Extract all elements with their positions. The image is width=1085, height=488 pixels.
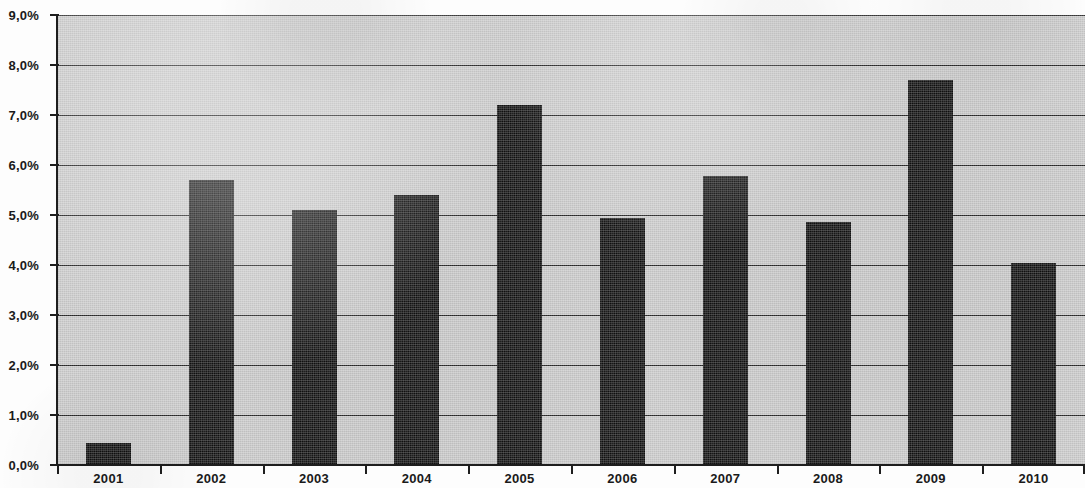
bar-2007 bbox=[703, 176, 748, 465]
bar-fill bbox=[703, 176, 748, 465]
y-tick-label: 1,0% bbox=[0, 408, 39, 423]
bar-2006 bbox=[600, 218, 645, 466]
y-tick-mark bbox=[50, 14, 59, 16]
x-tick-mark bbox=[57, 465, 59, 474]
bar-2010 bbox=[1011, 263, 1056, 466]
x-tick-label-2003: 2003 bbox=[299, 471, 329, 486]
x-tick-label-2002: 2002 bbox=[196, 471, 226, 486]
plot-area bbox=[57, 15, 1085, 465]
y-tick-mark bbox=[50, 414, 59, 416]
x-tick-label-2004: 2004 bbox=[402, 471, 432, 486]
y-axis-line bbox=[56, 14, 58, 466]
x-tick-mark bbox=[982, 465, 984, 474]
bar-fill bbox=[86, 443, 131, 466]
gridline-90 bbox=[57, 15, 1085, 16]
x-tick-label-2001: 2001 bbox=[93, 471, 123, 486]
y-tick-label: 2,0% bbox=[0, 358, 39, 373]
y-tick-label: 9,0% bbox=[0, 8, 39, 23]
bar-chart: 0,0%1,0%2,0%3,0%4,0%5,0%6,0%7,0%8,0%9,0%… bbox=[0, 0, 1085, 488]
bar-fill bbox=[189, 180, 234, 465]
x-tick-mark bbox=[365, 465, 367, 474]
bar-2008 bbox=[806, 222, 851, 466]
y-tick-label: 6,0% bbox=[0, 158, 39, 173]
bar-fill bbox=[806, 222, 851, 466]
bar-fill bbox=[908, 80, 953, 465]
bar-fill bbox=[497, 105, 542, 465]
bar-fill bbox=[600, 218, 645, 466]
x-tick-label-2009: 2009 bbox=[916, 471, 946, 486]
y-tick-mark bbox=[50, 164, 59, 166]
bar-2009 bbox=[908, 80, 953, 465]
bar-2001 bbox=[86, 443, 131, 466]
y-tick-label: 0,0% bbox=[0, 458, 39, 473]
bar-fill bbox=[292, 210, 337, 465]
y-tick-label: 5,0% bbox=[0, 208, 39, 223]
y-tick-label: 8,0% bbox=[0, 58, 39, 73]
x-tick-label-2008: 2008 bbox=[813, 471, 843, 486]
bar-fill bbox=[394, 195, 439, 465]
y-tick-mark bbox=[50, 114, 59, 116]
y-tick-mark bbox=[50, 364, 59, 366]
bar-2003 bbox=[292, 210, 337, 465]
x-tick-label-2010: 2010 bbox=[1019, 471, 1049, 486]
x-tick-mark bbox=[571, 465, 573, 474]
bar-fill bbox=[1011, 263, 1056, 466]
y-tick-label: 3,0% bbox=[0, 308, 39, 323]
x-tick-label-2006: 2006 bbox=[607, 471, 637, 486]
y-tick-mark bbox=[50, 64, 59, 66]
x-tick-mark bbox=[777, 465, 779, 474]
x-tick-mark bbox=[263, 465, 265, 474]
y-tick-mark bbox=[50, 214, 59, 216]
bar-2004 bbox=[394, 195, 439, 465]
x-tick-label-2007: 2007 bbox=[710, 471, 740, 486]
x-tick-label-2005: 2005 bbox=[505, 471, 535, 486]
y-tick-mark bbox=[50, 264, 59, 266]
bar-2005 bbox=[497, 105, 542, 465]
x-tick-mark bbox=[879, 465, 881, 474]
bar-2002 bbox=[189, 180, 234, 465]
gridline-80 bbox=[57, 65, 1085, 66]
x-tick-mark bbox=[468, 465, 470, 474]
y-tick-mark bbox=[50, 314, 59, 316]
x-tick-mark bbox=[160, 465, 162, 474]
y-tick-label: 4,0% bbox=[0, 258, 39, 273]
y-tick-label: 7,0% bbox=[0, 108, 39, 123]
x-tick-mark bbox=[674, 465, 676, 474]
